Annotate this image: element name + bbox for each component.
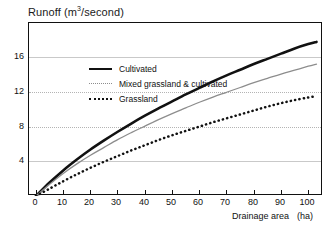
x-tick-label-40: 40: [132, 198, 156, 207]
legend-swatch-fine-dotted-line-icon: [89, 79, 112, 89]
curves-layer: [29, 23, 323, 196]
x-tick-label-60: 60: [186, 198, 210, 207]
y-axis-title: Runoff (m3/second): [28, 6, 124, 19]
y-tick-label-16: 16: [2, 52, 24, 61]
x-tick-label-20: 20: [77, 198, 101, 207]
runoff-chart-figure: Runoff (m3/second) 16 12 8 4: [0, 0, 335, 231]
chart-legend: Cultivated Mixed grassland & cultivated …: [89, 63, 269, 108]
x-tick-label-90: 90: [268, 198, 292, 207]
y-axis-title-post: /second): [81, 6, 124, 18]
legend-label-grassland: Grassland: [119, 94, 158, 104]
y-tick-label-4: 4: [2, 156, 24, 165]
x-tick-label-50: 50: [159, 198, 183, 207]
x-axis-unit: (ha): [297, 211, 313, 221]
y-tick-label-8: 8: [2, 122, 24, 131]
plot-area: Cultivated Mixed grassland & cultivated …: [28, 22, 322, 195]
legend-item-mixed-grassland-cultivated: Mixed grassland & cultivated: [89, 78, 269, 90]
x-tick-label-0: 0: [23, 198, 47, 207]
legend-swatch-bold-dotted-line-icon: [89, 94, 112, 104]
legend-swatch-solid-line-icon: [89, 64, 112, 74]
x-tick-label-100: 100: [295, 198, 319, 207]
x-tick-label-80: 80: [241, 198, 265, 207]
legend-item-grassland: Grassland: [89, 93, 269, 105]
x-tick-label-30: 30: [104, 198, 128, 207]
legend-label-cultivated: Cultivated: [119, 64, 157, 74]
x-axis-title: Drainage area(ha): [232, 211, 313, 221]
x-tick-label-70: 70: [213, 198, 237, 207]
legend-label-mixed-grassland-cultivated: Mixed grassland & cultivated: [119, 79, 227, 89]
y-axis-title-pre: Runoff (m: [28, 6, 77, 18]
x-tick-label-10: 10: [50, 198, 74, 207]
legend-item-cultivated: Cultivated: [89, 63, 269, 75]
y-tick-label-12: 12: [2, 87, 24, 96]
x-axis-title-text: Drainage area: [232, 211, 289, 221]
